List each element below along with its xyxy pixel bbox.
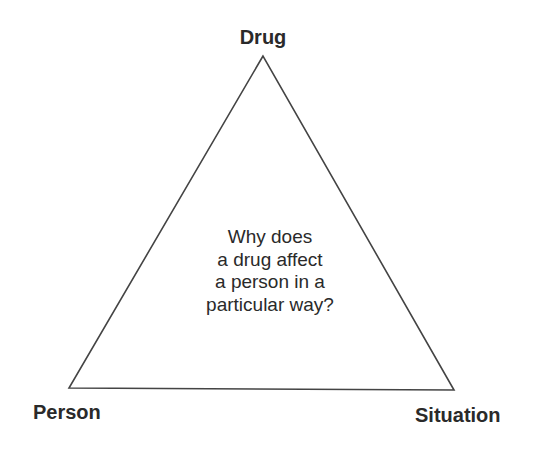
center-question-line-3: a person in a — [170, 271, 370, 294]
center-question-line-1: Why does — [170, 226, 370, 249]
vertex-label-drug: Drug — [240, 27, 287, 47]
center-question-line-4: particular way? — [170, 294, 370, 317]
center-question-line-2: a drug affect — [170, 249, 370, 272]
vertex-label-situation: Situation — [415, 405, 501, 425]
center-question: Why does a drug affect a person in a par… — [170, 226, 370, 316]
vertex-label-person: Person — [33, 402, 101, 422]
drug-person-situation-diagram: Drug Person Situation Why does a drug af… — [0, 0, 540, 451]
